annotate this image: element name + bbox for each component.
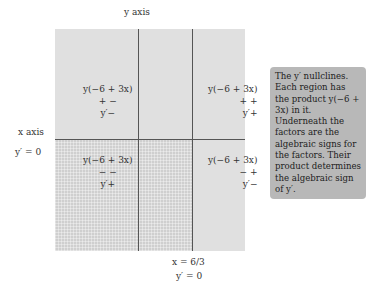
product-label: y(−6 + 3x) [208, 83, 257, 95]
signs-label: + + [208, 95, 257, 107]
region-lower-right: y(−6 + 3x) − + y′− [208, 154, 257, 190]
y-axis-label: y axis [124, 7, 150, 17]
x-nullcline-line [192, 29, 193, 251]
x-axis-line [55, 139, 245, 140]
result-label: y′+ [208, 107, 257, 119]
product-label: y(−6 + 3x) [83, 154, 132, 166]
region-upper-left: y(−6 + 3x) + − y′− [83, 83, 132, 119]
explanation-note: The y′ nullclines. Each region has the p… [270, 67, 366, 199]
region-lower-left: y(−6 + 3x) − − y′+ [83, 154, 132, 190]
product-label: y(−6 + 3x) [83, 83, 132, 95]
signs-label: − − [83, 166, 132, 178]
region-upper-right: y(−6 + 3x) + + y′+ [208, 83, 257, 119]
signs-label: − + [208, 166, 257, 178]
vertical-nullcline-eq: x = 6/3 [172, 257, 205, 267]
product-label: y(−6 + 3x) [208, 154, 257, 166]
result-label: y′− [208, 178, 257, 190]
vertical-nullcline-sub: y′ = 0 [176, 271, 202, 281]
signs-label: + − [83, 95, 132, 107]
result-label: y′− [83, 107, 132, 119]
phase-plane: y(−6 + 3x) + − y′− y(−6 + 3x) + + y′+ y(… [55, 29, 245, 251]
x-axis-nullcline-label: y′ = 0 [15, 147, 41, 157]
x-axis-label: x axis [18, 127, 44, 137]
y-axis-line [138, 29, 139, 251]
result-label: y′+ [83, 178, 132, 190]
